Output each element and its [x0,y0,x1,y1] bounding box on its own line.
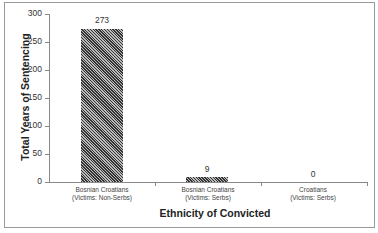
bar-bosnian-croatians-serbs [186,177,228,182]
y-tick [45,70,49,71]
x-category-label: Bosnian Croatians (Victims: Serbs) [153,186,263,202]
y-tick-label: 100 [14,120,42,130]
bar-bosnian-croatians-non-serbs [81,29,123,182]
y-tick [45,98,49,99]
y-tick-label: 150 [14,92,42,102]
x-category-label: Bosnian Croatians (Victims: Non-Serbs) [47,186,157,202]
value-label: 9 [177,164,237,174]
y-tick [45,42,49,43]
y-tick-label: 50 [14,148,42,158]
category-line: (Victims: Non-Serbs) [47,194,157,202]
category-line: (Victims: Serbs) [153,194,263,202]
y-tick [45,154,49,155]
value-label: 273 [72,15,132,25]
y-tick [45,14,49,15]
category-line: Bosnian Croatians [47,186,157,194]
y-tick-label: 200 [14,64,42,74]
y-tick-label: 250 [14,36,42,46]
x-axis-label: Ethnicity of Convicted [100,207,330,219]
category-line: Croatians [258,186,368,194]
y-tick [45,182,49,183]
x-axis-line [49,182,368,183]
y-tick-label: 300 [14,8,42,18]
category-line: Bosnian Croatians [153,186,263,194]
category-line: (Victims: Serbs) [258,194,368,202]
y-tick [45,126,49,127]
x-category-label: Croatians (Victims: Serbs) [258,186,368,202]
y-tick-label: 0 [14,176,42,186]
y-axis-line [49,14,50,183]
value-label: 0 [283,169,343,179]
